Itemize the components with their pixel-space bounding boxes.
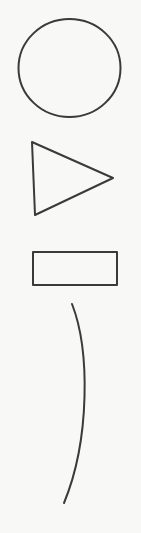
drawing-canvas [0,0,141,533]
sketch-svg [0,0,141,533]
circle-shape [19,19,121,117]
arc-shape [64,304,85,503]
triangle-shape [32,142,113,215]
rectangle-shape [33,252,117,285]
